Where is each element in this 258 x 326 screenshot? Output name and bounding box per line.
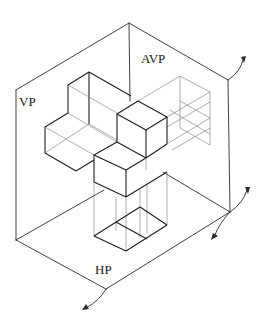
label-vp: VP bbox=[19, 94, 36, 109]
rotation-arrow-top bbox=[228, 56, 246, 80]
label-hp: HP bbox=[95, 262, 112, 277]
rotation-arrow-right bbox=[211, 187, 250, 240]
label-avp: AVP bbox=[141, 51, 165, 66]
rotation-arrow-bottom bbox=[82, 289, 106, 310]
projection-diagram: VP AVP HP bbox=[0, 0, 258, 326]
isometric-solid bbox=[45, 72, 210, 251]
